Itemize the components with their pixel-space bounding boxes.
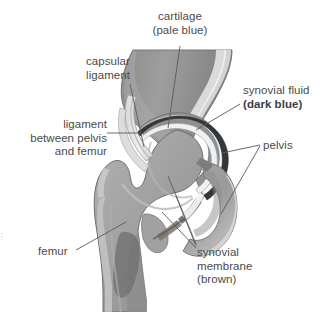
label-pelvis-line1: pelvis [263, 139, 323, 153]
label-synovial-fluid-line2: (dark blue) [243, 98, 325, 112]
label-pelvis: pelvis [263, 139, 323, 153]
label-capsular-ligament-line1: capsular [62, 55, 154, 69]
label-synovial-fluid-line1: synovial fluid [243, 84, 325, 98]
label-synovial-fluid: synovial fluid (dark blue) [243, 84, 325, 111]
label-synovial-membrane-line2: membrane [197, 260, 292, 274]
label-ligament-pelvis-femur: ligament between pelvis and femur [2, 118, 107, 159]
label-cartilage-line1: cartilage [135, 10, 225, 24]
leader-line-pelvis-upper [222, 145, 260, 153]
label-cartilage-line2: (pale blue) [135, 24, 225, 38]
hip-joint-diagram: cartilage (pale blue) capsular ligament … [0, 0, 325, 312]
label-femur-line1: femur [38, 245, 98, 259]
label-ligament-pelvis-femur-line3: and femur [2, 145, 107, 159]
label-ligament-pelvis-femur-line1: ligament [2, 118, 107, 132]
label-capsular-ligament-line2: ligament [62, 69, 154, 83]
label-femur: femur [38, 245, 98, 259]
label-synovial-membrane-line1: synovial [197, 246, 292, 260]
label-cartilage: cartilage (pale blue) [135, 10, 225, 37]
label-ligament-pelvis-femur-line2: between pelvis [2, 132, 107, 146]
label-synovial-membrane: synovial membrane (brown) [197, 246, 292, 287]
label-synovial-membrane-line3: (brown) [197, 273, 292, 287]
scan-artifact [1, 233, 3, 240]
label-capsular-ligament: capsular ligament [62, 55, 154, 82]
